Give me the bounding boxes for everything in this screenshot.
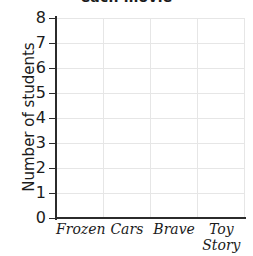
- gridline-vertical: [244, 18, 245, 218]
- x-axis-line: [55, 217, 246, 219]
- y-tick-label: 5: [16, 85, 46, 101]
- y-tick-mark: [49, 93, 56, 94]
- x-tick-label-toy-story: Toy Story: [198, 221, 245, 253]
- x-tick-label-line: Story: [198, 237, 245, 253]
- y-tick-mark: [49, 143, 56, 144]
- x-tick-label-cars: Cars: [103, 221, 150, 237]
- x-tick-label-line: Frozen: [56, 221, 103, 237]
- y-tick-label: 0: [16, 210, 46, 226]
- y-tick-mark: [49, 68, 56, 69]
- x-tick-label-line: Brave: [151, 221, 198, 237]
- y-tick-mark: [49, 168, 56, 169]
- y-tick-label: 7: [16, 35, 46, 51]
- y-tick-mark: [49, 118, 56, 119]
- y-tick-label: 3: [16, 135, 46, 151]
- x-tick-label-brave: Brave: [151, 221, 198, 237]
- y-tick-label: 1: [16, 185, 46, 201]
- x-tick-label-group: Frozen Cars Brave Toy Story: [56, 221, 245, 256]
- plot-area: [56, 18, 245, 218]
- x-tick-label-line: Toy: [198, 221, 245, 237]
- gridline-vertical: [150, 18, 151, 218]
- x-tick-label-line: Cars: [103, 221, 150, 237]
- gridline-vertical: [197, 18, 198, 218]
- y-tick-mark: [49, 218, 56, 219]
- y-tick-label: 4: [16, 110, 46, 126]
- y-tick-mark: [49, 18, 56, 19]
- bar-chart: each movie Number of students 8 7 6 5 4 …: [0, 0, 253, 256]
- y-tick-label: 6: [16, 60, 46, 76]
- y-tick-label: 2: [16, 160, 46, 176]
- y-tick-label-group: 8 7 6 5 4 3 2 1 0: [14, 0, 46, 256]
- y-tick-mark: [49, 193, 56, 194]
- y-tick-mark: [49, 43, 56, 44]
- x-tick-label-frozen: Frozen: [56, 221, 103, 237]
- y-tick-label: 8: [16, 10, 46, 26]
- gridline-vertical: [103, 18, 104, 218]
